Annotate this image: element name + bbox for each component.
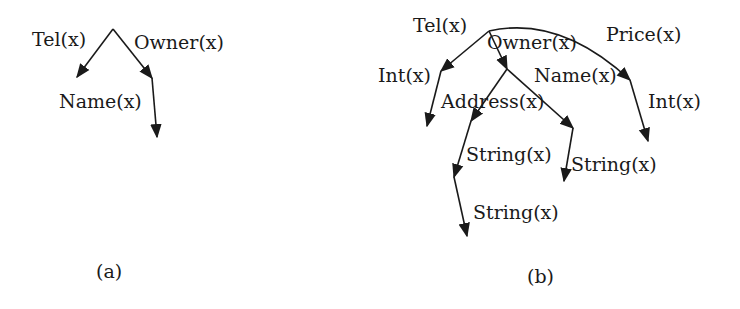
node-b-address-string-label: String(x) <box>466 145 552 164</box>
node-b-owner-label: Owner(x) <box>487 33 577 52</box>
node-a-name-label: Name(x) <box>59 92 142 111</box>
node-b-price-label: Price(x) <box>606 25 681 44</box>
edge-b-tel <box>441 31 489 71</box>
caption-b: (b) <box>527 267 554 286</box>
node-b-tel-int-label: Int(x) <box>378 66 431 85</box>
node-b-tel-label: Tel(x) <box>413 16 467 35</box>
node-b-name-string-label: String(x) <box>571 155 657 174</box>
figure-canvas: Tel(x) Owner(x) Name(x) (a) Tel(x) Owner… <box>0 0 740 309</box>
edge-a-name <box>152 78 157 137</box>
node-b-address-label: Address(x) <box>441 92 544 111</box>
node-a-tel-label: Tel(x) <box>32 30 86 49</box>
node-b-name-label: Name(x) <box>534 66 617 85</box>
node-a-owner-label: Owner(x) <box>134 33 224 52</box>
node-b-address-string-2-label: String(x) <box>473 203 559 222</box>
node-b-price-int-label: Int(x) <box>648 92 701 111</box>
caption-a: (a) <box>96 262 122 281</box>
edge-b-price-int <box>630 80 648 141</box>
edge-b-address-string-2 <box>454 177 467 236</box>
